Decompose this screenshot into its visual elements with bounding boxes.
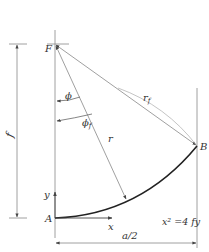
radius-f-line [56, 45, 196, 145]
equation-label: x² =4 fy [162, 216, 201, 227]
parabola-curve [55, 146, 197, 218]
label-phi: ϕ [65, 90, 72, 101]
label-A: A [44, 213, 52, 224]
label-phi-f: ϕf [82, 117, 93, 130]
label-B: B [199, 141, 207, 152]
label-x-axis: x [108, 221, 114, 232]
height-dim-label: f [3, 130, 17, 140]
height-dimension [9, 44, 27, 218]
label-y-axis: y [43, 189, 50, 200]
label-r-f: rf [143, 92, 152, 105]
label-r: r [108, 133, 114, 144]
label-F: F [44, 43, 53, 54]
width-dim-label: a/2 [122, 230, 138, 241]
parabola-diagram: f F A B rf r ϕ ϕf y x x² =4 fy a/2 [0, 0, 209, 252]
